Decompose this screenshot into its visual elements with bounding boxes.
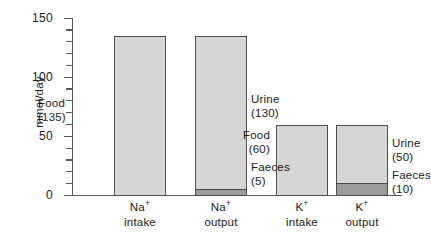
y-tick-minor-40 <box>66 148 72 149</box>
y-tick-minor-70 <box>66 112 72 113</box>
annotation-urine-50-value: (50) <box>392 151 413 163</box>
annotation-urine-50: Urine (50) <box>392 136 420 164</box>
annotation-faeces-10: Faeces (10) <box>392 168 431 196</box>
y-tick-150: 150 <box>64 18 72 19</box>
bar-na-intake <box>114 36 166 196</box>
plot-area: 0 50 100 150 Na+ <box>72 18 402 196</box>
y-tick-minor-80 <box>66 100 72 101</box>
y-tick-minor-130 <box>66 41 72 42</box>
y-tick-100: 100 <box>64 77 72 78</box>
annotation-faeces-10-value: (10) <box>392 183 413 195</box>
y-tick-label-150: 150 <box>32 11 53 25</box>
y-tick-50: 50 <box>64 136 72 137</box>
x-tick-label-na-intake: Na+ intake <box>102 200 178 229</box>
annotation-food-135-value: (135) <box>38 111 66 123</box>
y-tick-0: 0 <box>64 195 72 196</box>
bar-k-output <box>336 125 388 196</box>
x-tick-label-na-output: Na+ output <box>183 200 259 229</box>
x-tick-flow-na-intake: intake <box>124 216 156 228</box>
y-tick-minor-20 <box>66 171 72 172</box>
x-tick-ion-na-intake: Na <box>130 201 145 213</box>
x-tick-label-k-output: K+ output <box>324 200 400 229</box>
annotation-food-135-name: Food <box>38 97 65 109</box>
x-tick-charge-k-intake: + <box>303 198 308 208</box>
annotation-faeces-5: Faeces (5) <box>251 160 290 188</box>
annotation-food-60-value: (60) <box>249 143 270 155</box>
y-tick-minor-30 <box>66 159 72 160</box>
annotation-food-60: Food (60) <box>194 128 270 156</box>
bar-segment-faeces-na <box>196 189 246 195</box>
x-tick-flow-na-output: output <box>204 216 237 228</box>
y-tick-minor-60 <box>66 124 72 125</box>
bar-na-output <box>195 36 247 196</box>
y-tick-minor-10 <box>66 183 72 184</box>
y-tick-minor-110 <box>66 65 72 66</box>
annotation-urine-50-name: Urine <box>392 137 420 149</box>
x-tick-charge-k-output: + <box>363 198 368 208</box>
y-tick-minor-120 <box>66 53 72 54</box>
y-tick-label-0: 0 <box>46 188 53 202</box>
bar-segment-faeces-k <box>337 183 387 195</box>
annotation-faeces-5-value: (5) <box>251 175 266 187</box>
annotation-faeces-5-name: Faeces <box>251 161 290 173</box>
y-tick-label-50: 50 <box>39 129 53 143</box>
annotation-urine-130-name: Urine <box>251 93 279 105</box>
annotation-food-135: Food (135) <box>38 96 66 124</box>
annotation-urine-130-value: (130) <box>251 107 279 119</box>
annotation-food-60-name: Food <box>243 129 270 141</box>
annotation-urine-130: Urine (130) <box>251 92 279 120</box>
y-tick-label-100: 100 <box>32 70 53 84</box>
y-axis-line <box>72 18 73 196</box>
x-tick-flow-k-output: output <box>345 216 378 228</box>
x-tick-charge-na-intake: + <box>145 198 150 208</box>
annotation-faeces-10-name: Faeces <box>392 169 431 181</box>
x-tick-ion-na-output: Na <box>211 201 226 213</box>
x-tick-flow-k-intake: intake <box>286 216 318 228</box>
y-tick-minor-90 <box>66 88 72 89</box>
x-tick-charge-na-output: + <box>226 198 231 208</box>
y-tick-minor-140 <box>66 29 72 30</box>
